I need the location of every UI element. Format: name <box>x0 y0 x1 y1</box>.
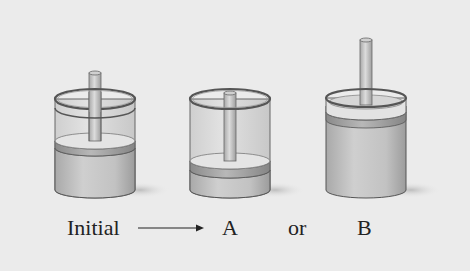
cylinder-a <box>190 89 305 198</box>
piston-rod-front <box>89 92 101 112</box>
piston-rod <box>360 40 372 105</box>
label-b: B <box>357 217 372 239</box>
label-or: or <box>288 217 306 239</box>
label-initial: Initial <box>67 217 120 239</box>
cylinder-b <box>326 38 441 198</box>
rod-cap <box>89 71 101 75</box>
rod-cap <box>360 38 372 42</box>
right-arrow-icon <box>138 225 204 232</box>
rod-cap <box>224 91 236 95</box>
label-a: A <box>222 217 238 239</box>
initial-cylinder <box>55 71 170 198</box>
piston-rod <box>224 93 236 161</box>
